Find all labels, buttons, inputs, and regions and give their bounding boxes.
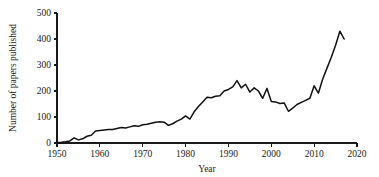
y-tick-label: 200 [37, 86, 52, 96]
x-tick-label: 2020 [348, 149, 367, 159]
x-tick-label: 1980 [176, 149, 195, 159]
x-tick-label: 1960 [90, 149, 109, 159]
y-tick-label: 100 [37, 112, 52, 122]
x-tick-label: 1990 [219, 149, 238, 159]
x-tick-label: 1950 [48, 149, 67, 159]
y-axis-title: Number of papers published [8, 24, 18, 132]
y-tick-label: 300 [37, 60, 52, 70]
y-tick-label: 500 [37, 8, 52, 18]
x-tick-label: 2010 [305, 149, 324, 159]
y-tick-label: 0 [46, 138, 51, 148]
chart-figure: 0100200300400500 19501960197019801990200… [0, 0, 379, 177]
x-tick-label: 2000 [262, 149, 281, 159]
x-axis-title: Year [198, 164, 216, 174]
y-tick-label: 400 [37, 34, 52, 44]
x-tick-label: 1970 [133, 149, 152, 159]
line-chart: 0100200300400500 19501960197019801990200… [0, 0, 379, 177]
